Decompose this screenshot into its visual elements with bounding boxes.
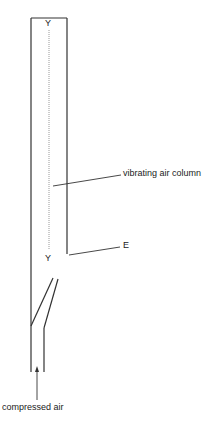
label-edge: E bbox=[123, 240, 129, 250]
column-leader bbox=[53, 175, 121, 186]
node-label-top: Y bbox=[45, 18, 51, 28]
arrow-head-icon bbox=[35, 366, 39, 372]
edge-leader bbox=[69, 247, 120, 255]
label-compressed-air: compressed air bbox=[2, 402, 64, 412]
mouth-lip-inner bbox=[31, 278, 53, 326]
label-air-column: vibrating air column bbox=[123, 168, 201, 178]
organ-pipe-diagram bbox=[0, 0, 221, 421]
node-label-bottom: Y bbox=[45, 253, 51, 263]
mouth-lip-outer bbox=[44, 279, 58, 328]
